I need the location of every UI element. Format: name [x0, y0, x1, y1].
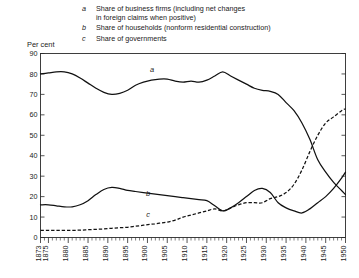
curve-label-b: b — [146, 189, 150, 198]
x-tick-label: 1935 — [279, 246, 288, 262]
y-tick-label: 0 — [34, 233, 38, 242]
curve-label-c: c — [146, 210, 150, 219]
x-tick-label: 1880 — [61, 246, 70, 262]
series-line-a — [41, 72, 346, 195]
series-line-b — [41, 172, 346, 213]
x-tick-label: 1875 — [41, 246, 50, 262]
y-tick-label: 50 — [30, 131, 38, 140]
chart-page: a Share of business firms (including net… — [0, 0, 359, 278]
x-tick-label: 1900 — [140, 246, 149, 262]
y-tick-label: 10 — [30, 213, 38, 222]
y-tick-label: 40 — [30, 151, 38, 160]
x-tick-label: 1890 — [101, 246, 110, 262]
x-tick-label: 1905 — [160, 246, 169, 262]
x-tick-label: 1945 — [319, 246, 328, 262]
x-tick-label: 1885 — [81, 246, 90, 262]
y-tick-label: 70 — [30, 90, 38, 99]
x-tick-label: 1950 — [339, 246, 348, 262]
x-tick-label: 1925 — [239, 246, 248, 262]
y-tick-label: 60 — [30, 110, 38, 119]
y-tick-label: 90 — [30, 49, 38, 58]
chart-svg: 0102030405060708090187318751880188518901… — [0, 0, 359, 278]
curve-label-a: a — [150, 65, 154, 74]
x-tick-label: 1895 — [121, 246, 130, 262]
y-tick-label: 20 — [30, 192, 38, 201]
x-tick-label: 1920 — [220, 246, 229, 262]
series-line-c — [41, 109, 346, 231]
y-tick-label: 30 — [30, 172, 38, 181]
x-tick-label: 1930 — [259, 246, 268, 262]
y-tick-label: 80 — [30, 70, 38, 79]
x-tick-label: 1940 — [299, 246, 308, 262]
chart-plot-area: 0102030405060708090187318751880188518901… — [0, 0, 359, 278]
x-tick-label: 1910 — [180, 246, 189, 262]
x-tick-label: 1915 — [200, 246, 209, 262]
